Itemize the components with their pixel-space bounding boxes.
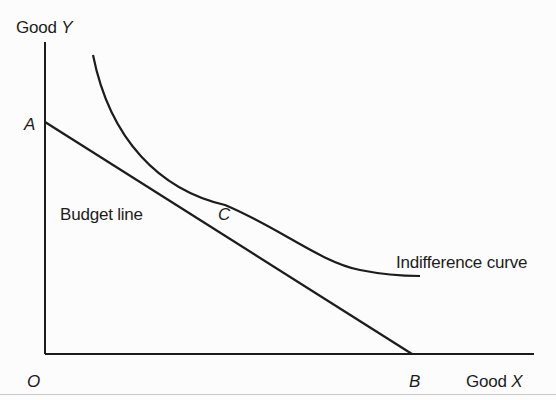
indifference-diagram: Good Y Good X O A B C Budget line Indiff… xyxy=(0,0,556,400)
origin-label: O xyxy=(27,373,40,390)
x-axis-label-text: Good xyxy=(466,372,511,391)
point-c-label: C xyxy=(218,206,230,223)
y-axis-label: Good Y xyxy=(16,19,72,36)
budget-line-label: Budget line xyxy=(60,206,143,223)
page-divider xyxy=(0,394,556,395)
point-a-label: A xyxy=(24,116,35,133)
y-axis-variable: Y xyxy=(61,18,72,37)
indifference-curve xyxy=(93,55,420,276)
indifference-curve-label: Indifference curve xyxy=(396,254,527,271)
x-axis-variable: X xyxy=(511,372,522,391)
y-axis-label-text: Good xyxy=(16,18,61,37)
diagram-graphic xyxy=(0,0,556,400)
point-b-label: B xyxy=(409,373,420,390)
budget-line xyxy=(45,122,412,354)
x-axis-label: Good X xyxy=(466,373,522,390)
